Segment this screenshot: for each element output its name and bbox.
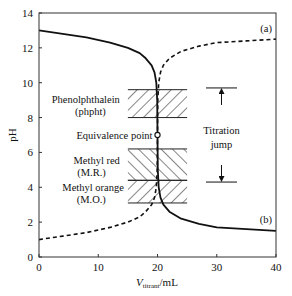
- y-tick-label: 2: [28, 216, 34, 228]
- indicator-label-phenolphthalein: Phenolphthalein: [52, 94, 121, 105]
- x-tick-label: 0: [36, 261, 42, 273]
- titration-jump-label: Titration: [203, 125, 240, 136]
- equivalence-point-marker: [155, 132, 160, 137]
- indicator-label-sub-phenolphthalein: (phpht): [75, 106, 106, 118]
- y-axis-label: pH: [6, 128, 18, 142]
- indicator-box-methyl-orange: [128, 180, 187, 203]
- y-tick-label: 10: [22, 77, 34, 89]
- x-tick-label: 30: [211, 261, 223, 273]
- x-tick-label: 20: [152, 261, 164, 273]
- titration-jump-label-sub: jump: [210, 139, 233, 150]
- x-tick-label: 10: [93, 261, 105, 273]
- indicator-label-sub-methyl-orange: (M.O.): [77, 194, 107, 206]
- x-axis-label-sub: titrant: [143, 282, 160, 290]
- x-axis-label-unit: /mL: [160, 276, 179, 288]
- curve-label-b: (b): [260, 214, 273, 226]
- x-tick-label: 40: [271, 261, 283, 273]
- y-tick-label: 0: [28, 251, 34, 263]
- y-tick-label: 14: [22, 7, 34, 19]
- titration-chart: Phenolphthalein(phpht)Methyl red(M.R.)Me…: [0, 0, 292, 296]
- y-tick-label: 8: [28, 112, 34, 124]
- y-tick-label: 4: [28, 181, 34, 193]
- x-axis-label: Vtitrant/mL: [136, 276, 178, 290]
- indicator-label-methyl-red: Methyl red: [74, 155, 121, 166]
- y-tick-label: 6: [28, 146, 34, 158]
- curve-label-a: (a): [260, 23, 272, 35]
- equivalence-point-label: Equivalence point: [76, 130, 152, 141]
- y-tick-label: 12: [22, 42, 33, 54]
- indicator-label-sub-methyl-red: (M.R.): [77, 167, 106, 179]
- indicator-label-methyl-orange: Methyl orange: [62, 182, 124, 193]
